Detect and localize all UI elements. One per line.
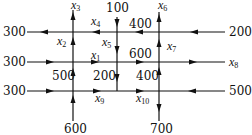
arrow-down-icon [157,104,162,112]
flow-network-diagram: 300 300 300 100 200 600 700 500 400 600 … [0,0,252,135]
arrow-left-icon [92,30,100,35]
arrow-right-icon [189,60,197,65]
flow-label: 400 [136,69,159,83]
arrow-up-icon [71,12,76,20]
variable-label: x5 [101,35,111,50]
flow-label: 300 [3,84,26,98]
flow-label: 500 [52,69,75,83]
flow-label: 600 [64,122,87,135]
arrow-up-icon [157,39,162,47]
arrow-right-icon [46,60,54,65]
flow-label: 400 [129,17,152,31]
variable-label: x8 [228,55,238,70]
variable-label: x6 [157,0,167,13]
variable-label: x1 [90,48,100,63]
flow-label: 500 [229,84,252,98]
flow-label: 300 [3,55,26,69]
arrow-left-icon [190,30,198,35]
flow-label: 200 [229,25,252,39]
arrow-left-icon [188,89,196,94]
arrow-down-icon [115,46,120,54]
arrow-left-icon [40,30,48,35]
variable-label: x9 [94,91,104,106]
flow-label: 600 [129,47,152,61]
variable-label: x3 [70,0,80,13]
flow-label: 200 [93,69,116,83]
flow-label: 300 [3,25,26,39]
variable-label: x4 [90,14,100,29]
arrow-down-icon [115,19,120,27]
arrow-up-icon [71,37,76,45]
arrow-right-icon [46,89,54,94]
flow-label: 100 [106,1,129,15]
variable-label: x2 [56,34,66,49]
flow-label: 700 [150,122,173,135]
variable-label: x10 [135,91,149,106]
variable-label: x7 [166,39,176,54]
arrow-up-icon [71,95,76,103]
arrow-up-icon [157,14,162,22]
